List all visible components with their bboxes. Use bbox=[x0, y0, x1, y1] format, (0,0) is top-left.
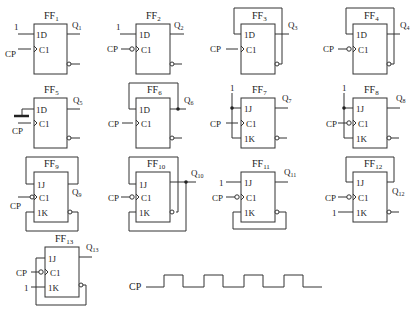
svg-text:1K: 1K bbox=[244, 134, 256, 144]
feedback-wire bbox=[176, 184, 178, 212]
svg-text:1K: 1K bbox=[244, 208, 256, 218]
svg-text:CP: CP bbox=[10, 201, 21, 211]
inverter-bubble-icon bbox=[170, 210, 174, 214]
junction-dot bbox=[176, 107, 180, 111]
svg-text:Q5: Q5 bbox=[73, 95, 83, 106]
svg-text:1K: 1K bbox=[356, 208, 368, 218]
svg-text:FF12: FF12 bbox=[364, 158, 383, 171]
flip-flop-ff12: FF12 1J CP C1 1 1K Q12 bbox=[325, 157, 405, 222]
junction-dot bbox=[342, 106, 346, 110]
svg-text:C1: C1 bbox=[358, 119, 369, 129]
svg-text:Q10: Q10 bbox=[191, 168, 204, 179]
flip-flop-ff3: FF3 1D CP C1 Q3 bbox=[210, 8, 298, 74]
svg-text:1D: 1D bbox=[36, 105, 48, 115]
flip-flop-ff5: FF5 1D CP C1 Q5 bbox=[12, 84, 83, 148]
svg-text:Q11: Q11 bbox=[284, 167, 296, 178]
inverter-bubble-icon bbox=[347, 195, 351, 199]
svg-text:FF10: FF10 bbox=[147, 158, 166, 171]
svg-text:C1: C1 bbox=[246, 119, 257, 129]
svg-text:CP: CP bbox=[108, 119, 119, 129]
flip-flop-diagram: FF1 1 1D CP C1 Q1 FF2 1 1D CP C1 Q2 FF3 … bbox=[0, 0, 417, 315]
clock-waveform-line bbox=[146, 275, 322, 287]
svg-text:Q7: Q7 bbox=[282, 93, 292, 104]
svg-text:C1: C1 bbox=[358, 193, 369, 203]
flip-flop-ff7: FF7 1 1J CP C1 1K Q7 bbox=[210, 83, 292, 148]
svg-text:Q6: Q6 bbox=[184, 95, 194, 106]
svg-text:C1: C1 bbox=[141, 45, 152, 55]
svg-text:1K: 1K bbox=[48, 283, 60, 293]
svg-text:CP: CP bbox=[16, 268, 27, 278]
flip-flop-ff11: FF11 1 1J CP C1 1K Q11 bbox=[212, 158, 296, 229]
svg-text:FF6: FF6 bbox=[147, 84, 162, 97]
svg-text:FF9: FF9 bbox=[44, 158, 59, 171]
ff1-title: FF1 bbox=[44, 10, 59, 23]
svg-text:CP: CP bbox=[5, 49, 16, 59]
svg-text:1J: 1J bbox=[356, 178, 365, 188]
svg-text:1J: 1J bbox=[244, 104, 253, 114]
svg-text:CP: CP bbox=[212, 193, 223, 203]
svg-text:1: 1 bbox=[332, 208, 337, 218]
svg-text:1K: 1K bbox=[37, 208, 49, 218]
inverter-bubble-icon bbox=[130, 195, 134, 199]
inverter-bubble-icon bbox=[170, 136, 174, 140]
inverter-bubble-icon bbox=[67, 62, 71, 66]
svg-text:1: 1 bbox=[24, 283, 29, 293]
svg-text:1: 1 bbox=[116, 22, 121, 32]
flip-flop-ff4: FF4 1D CP C1 Q4 bbox=[323, 8, 410, 74]
svg-text:1J: 1J bbox=[37, 180, 46, 190]
svg-text:FF11: FF11 bbox=[252, 158, 270, 171]
svg-text:FF4: FF4 bbox=[364, 10, 379, 23]
flip-flop-ff1: FF1 1 1D CP C1 Q1 bbox=[5, 10, 82, 74]
svg-text:CP: CP bbox=[108, 193, 119, 203]
svg-text:C1: C1 bbox=[246, 193, 257, 203]
svg-text:CP: CP bbox=[210, 119, 221, 129]
svg-text:Q13: Q13 bbox=[86, 242, 99, 253]
flip-flop-ff9: FF9 1J CP C1 1K Q9 bbox=[10, 157, 82, 231]
svg-text:C1: C1 bbox=[358, 45, 369, 55]
svg-text:1D: 1D bbox=[244, 30, 256, 40]
svg-text:CP: CP bbox=[326, 119, 337, 129]
svg-text:1D: 1D bbox=[356, 30, 368, 40]
svg-text:CP: CP bbox=[129, 281, 142, 292]
inverter-bubble-icon bbox=[387, 136, 391, 140]
svg-text:1J: 1J bbox=[244, 178, 253, 188]
svg-text:FF2: FF2 bbox=[146, 10, 161, 23]
junction-dot bbox=[230, 106, 234, 110]
svg-text:C1: C1 bbox=[39, 45, 50, 55]
svg-text:C1: C1 bbox=[39, 119, 50, 129]
inverter-bubble-icon bbox=[68, 210, 72, 214]
svg-text:CP: CP bbox=[12, 126, 23, 136]
svg-text:C1: C1 bbox=[141, 119, 152, 129]
svg-text:Q2: Q2 bbox=[174, 20, 184, 31]
svg-text:Q4: Q4 bbox=[400, 20, 410, 31]
cp-waveform: CP bbox=[129, 275, 322, 292]
svg-text:1: 1 bbox=[219, 178, 224, 188]
svg-text:1D: 1D bbox=[36, 30, 48, 40]
inverter-bubble-icon bbox=[67, 136, 71, 140]
inverter-bubble-icon bbox=[347, 121, 351, 125]
flip-flop-ff13: FF13 1J CP C1 1 1K Q13 bbox=[16, 233, 99, 305]
svg-text:1J: 1J bbox=[139, 180, 148, 190]
flip-flop-ff8: FF8 1 1J CP C1 1K Q8 bbox=[326, 83, 406, 148]
svg-text:1J: 1J bbox=[356, 104, 365, 114]
svg-text:1: 1 bbox=[342, 83, 347, 93]
inverter-bubble-icon bbox=[275, 210, 279, 214]
svg-text:CP: CP bbox=[210, 44, 221, 54]
inverter-bubble-icon bbox=[275, 136, 279, 140]
svg-text:CP: CP bbox=[323, 44, 334, 54]
svg-text:1J: 1J bbox=[48, 254, 57, 264]
svg-text:1D: 1D bbox=[139, 30, 151, 40]
inverter-bubble-icon bbox=[387, 62, 391, 66]
svg-text:C1: C1 bbox=[141, 193, 152, 203]
inverter-bubble-icon bbox=[235, 195, 239, 199]
svg-text:1D: 1D bbox=[139, 105, 151, 115]
svg-text:FF7: FF7 bbox=[252, 84, 267, 97]
svg-text:Q9: Q9 bbox=[72, 187, 82, 198]
svg-text:FF5: FF5 bbox=[44, 84, 59, 97]
junction-dot bbox=[184, 180, 188, 184]
svg-text:Q8: Q8 bbox=[396, 93, 406, 104]
svg-text:C1: C1 bbox=[50, 268, 61, 278]
svg-text:Q12: Q12 bbox=[392, 186, 405, 197]
svg-text:Q3: Q3 bbox=[288, 20, 298, 31]
inverter-bubble-icon bbox=[39, 270, 43, 274]
